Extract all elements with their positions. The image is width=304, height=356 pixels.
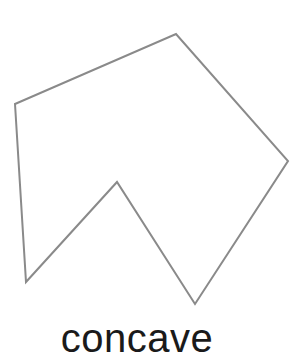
concave-polygon-shape bbox=[15, 34, 288, 304]
shape-label: concave bbox=[0, 318, 274, 356]
